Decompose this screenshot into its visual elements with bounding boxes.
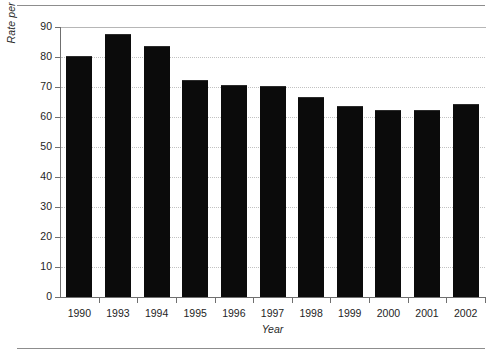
x-axis-tick	[99, 298, 100, 303]
y-axis-tick-label: 30	[10, 201, 52, 213]
y-axis-line	[60, 27, 61, 298]
plot-frame-top	[60, 27, 486, 28]
bar	[298, 97, 324, 297]
y-axis-tick	[55, 267, 60, 268]
x-axis-tick	[292, 298, 293, 303]
y-axis-tick-label-text: 60	[12, 111, 52, 122]
y-axis-tick	[55, 147, 60, 148]
x-axis-tick-label: 2000	[369, 307, 408, 319]
x-axis-tick	[253, 298, 254, 303]
y-axis-tick-label: 50	[10, 141, 52, 153]
bar	[66, 56, 92, 298]
y-axis-tick	[55, 207, 60, 208]
y-axis-tick-label-text: 0	[12, 291, 52, 302]
x-axis-tick-label: 1997	[253, 307, 292, 319]
y-axis-tick-label: 10	[10, 261, 52, 273]
y-axis-tick-label: 60	[10, 111, 52, 123]
y-axis-tick	[55, 117, 60, 118]
x-axis-tick-label: 1996	[215, 307, 254, 319]
y-axis-title: Rate per 100,000 Females	[0, 0, 22, 80]
x-axis-tick-label: 1999	[330, 307, 369, 319]
bar	[414, 110, 440, 297]
y-axis-tick	[55, 297, 60, 298]
bar	[453, 104, 479, 297]
page-rule-bottom	[17, 348, 485, 349]
y-axis-tick-label: 20	[10, 231, 52, 243]
plot-area: 0102030405060708090 19901993199419951996…	[60, 27, 485, 297]
x-axis-tick-label: 1990	[60, 307, 99, 319]
y-axis-tick-label-text: 30	[12, 201, 52, 212]
bar	[221, 85, 247, 297]
y-axis-tick-label-text: 90	[12, 21, 52, 32]
y-axis-tick	[55, 237, 60, 238]
y-axis-tick-label-text: 40	[12, 171, 52, 182]
y-axis-tick-label-text: 70	[12, 81, 52, 92]
y-axis-tick-label-text: 10	[12, 261, 52, 272]
bar	[182, 80, 208, 297]
bar	[375, 110, 401, 297]
x-axis-tick-label: 1994	[137, 307, 176, 319]
y-axis-tick-label: 70	[10, 81, 52, 93]
x-axis-tick	[176, 298, 177, 303]
bar	[337, 106, 363, 297]
x-axis-tick-label: 1998	[292, 307, 331, 319]
x-axis-tick-label: 2002	[446, 307, 485, 319]
x-axis-tick	[408, 298, 409, 303]
x-axis-tick	[446, 298, 447, 303]
x-axis-tick-label: 2001	[408, 307, 447, 319]
page-rule-top	[17, 5, 485, 6]
x-axis-line	[60, 297, 486, 298]
y-axis-tick-label-text: 50	[12, 141, 52, 152]
y-axis-tick-label: 40	[10, 171, 52, 183]
y-axis-tick-label-text: 80	[12, 51, 52, 62]
x-axis-tick-label: 1993	[99, 307, 138, 319]
y-axis-tick-label: 0	[10, 291, 52, 303]
x-axis-tick	[330, 298, 331, 303]
x-axis-end-tick	[485, 298, 486, 303]
bar	[260, 86, 286, 297]
y-axis-tick-label: 90	[10, 21, 52, 33]
x-axis-tick-label: 1995	[176, 307, 215, 319]
y-axis-tick	[55, 87, 60, 88]
y-axis-tick	[55, 27, 60, 28]
bar	[144, 46, 170, 297]
y-axis-tick-label-text: 20	[12, 231, 52, 242]
x-axis-tick	[215, 298, 216, 303]
y-axis-tick	[55, 57, 60, 58]
y-axis-tick-label: 80	[10, 51, 52, 63]
y-axis-tick	[55, 177, 60, 178]
x-axis-title: Year	[60, 323, 485, 335]
x-axis-tick	[137, 298, 138, 303]
bar-chart-figure: Rate per 100,000 Females 010203040506070…	[0, 10, 501, 345]
bar	[105, 34, 131, 297]
x-axis-tick	[369, 298, 370, 303]
